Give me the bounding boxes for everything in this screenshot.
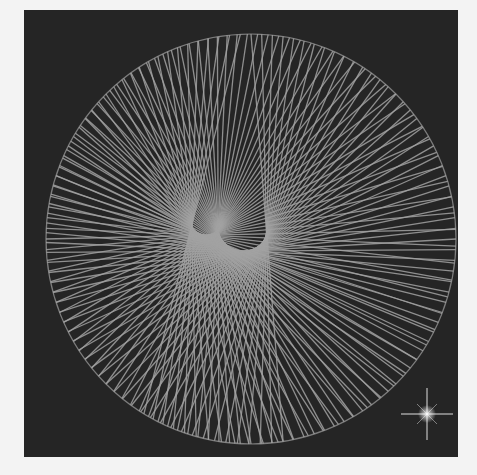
thread-lines — [46, 34, 456, 444]
string-art-panel — [24, 10, 458, 457]
sparkle-star-icon — [401, 388, 453, 440]
thread-line — [99, 62, 355, 376]
string-art-spiral — [24, 10, 458, 457]
